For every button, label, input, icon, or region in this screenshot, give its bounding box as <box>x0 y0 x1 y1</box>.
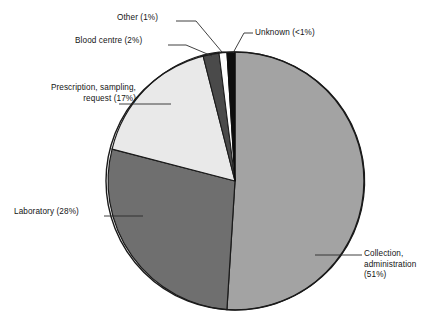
pie-label-unknown-text: Unknown (<1%) <box>255 28 315 39</box>
pie-label-prescription-line2: request (17%) <box>18 94 136 105</box>
pie-label-collection-line3: (51%) <box>364 270 416 281</box>
pie-label-laboratory: Laboratory (28%) <box>14 207 79 218</box>
pie-label-prescription-line1: Prescription, sampling, <box>18 83 136 94</box>
pie-slice-collection-administration[interactable] <box>227 52 365 310</box>
pie-label-blood-centre: Blood centre (2%) <box>75 36 142 47</box>
pie-label-other-text: Other (1%) <box>117 13 158 24</box>
pie-label-collection-administration: Collection, administration (51%) <box>364 249 416 281</box>
pie-label-other: Other (1%) <box>117 13 158 24</box>
pie-label-collection-line1: Collection, <box>364 249 416 260</box>
pie-label-unknown: Unknown (<1%) <box>255 28 315 39</box>
pie-chart: Other (1%) Blood centre (2%) Unknown (<1… <box>0 0 433 329</box>
pie-label-collection-line2: administration <box>364 260 416 271</box>
pie-label-laboratory-text: Laboratory (28%) <box>14 207 79 218</box>
pie-label-blood-centre-text: Blood centre (2%) <box>75 36 142 47</box>
pie-label-prescription-sampling-request: Prescription, sampling, request (17%) <box>18 83 136 104</box>
leader-line-other <box>176 21 222 52</box>
leader-line-unknown <box>233 33 253 53</box>
